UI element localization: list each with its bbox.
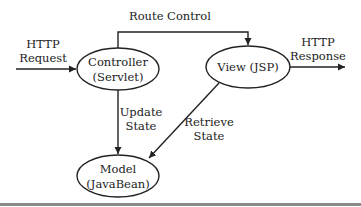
edge-http-response: HTTP Response xyxy=(290,35,346,67)
controller-label-line2: (Servlet) xyxy=(93,70,144,84)
node-view: View (JSP) xyxy=(206,46,290,88)
response-label-line1: HTTP xyxy=(301,35,335,49)
controller-label-line1: Controller xyxy=(88,55,148,69)
route-control-arrow xyxy=(118,32,248,48)
view-label: View (JSP) xyxy=(216,60,278,74)
response-label-line2: Response xyxy=(290,49,346,63)
node-model: Model (JavaBean) xyxy=(77,155,159,197)
request-label-line2: Request xyxy=(19,51,67,65)
update-state-label-line1: Update xyxy=(120,105,163,119)
edge-http-request: HTTP Request xyxy=(16,37,76,69)
bottom-divider xyxy=(0,203,361,206)
mvc-diagram: HTTP Request Route Control HTTP Response… xyxy=(0,0,361,207)
model-label-line1: Model xyxy=(100,162,137,176)
request-label-line1: HTTP xyxy=(26,37,60,51)
edge-retrieve-state: Retrieve State xyxy=(149,83,234,158)
edge-route-control: Route Control xyxy=(118,9,248,48)
retrieve-state-label-line1: Retrieve xyxy=(184,115,234,129)
route-control-label: Route Control xyxy=(129,9,211,23)
update-state-label-line2: State xyxy=(126,119,157,133)
edge-update-state: Update State xyxy=(118,90,163,154)
model-label-line2: (JavaBean) xyxy=(86,177,149,191)
node-controller: Controller (Servlet) xyxy=(77,48,159,90)
retrieve-state-label-line2: State xyxy=(194,129,225,143)
